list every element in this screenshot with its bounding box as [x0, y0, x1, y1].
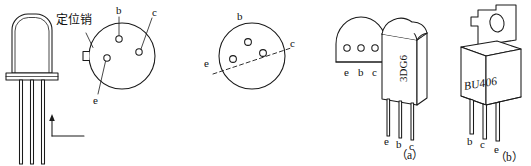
bottom-view-2-label-b: b [237, 11, 243, 22]
metal-can-side-view [6, 14, 84, 164]
package-3dg6-lead-label-e: e [384, 136, 389, 147]
d-shape-label-b: b [358, 67, 364, 78]
d-shape-bottom-view [336, 17, 386, 62]
bottom-view-1-label-e: e [93, 95, 98, 106]
pin-hole-e [230, 56, 237, 63]
package-bu406 [461, 5, 521, 141]
caption-b: （b） [495, 151, 523, 163]
pin-hole-b [116, 36, 122, 42]
bottom-view-2-label-e: e [204, 58, 209, 69]
bottom-view-1-label-c: c [152, 7, 157, 18]
pin-hole-e [344, 45, 350, 51]
bottom-view-2-label-c: c [290, 38, 295, 49]
package-bu406-leads [470, 99, 500, 141]
pin-hole-b [358, 45, 364, 51]
pin-hole-c [136, 49, 142, 55]
bottom-view-with-locating-pin [83, 17, 155, 94]
d-shape-label-e: e [344, 67, 349, 78]
metal-can-leads [20, 80, 45, 164]
pin-hole-e [104, 55, 110, 61]
package-3dg6-marking: 3DG6 [397, 55, 409, 82]
package-bu406-lead-label-c: c [480, 139, 485, 150]
locating-pin-label: 定位销 [56, 14, 92, 26]
bottom-view-1-label-b: b [116, 5, 122, 16]
pin-hole-c [260, 50, 267, 57]
d-shape-label-c: c [372, 67, 377, 78]
caption-a: （a） [396, 149, 423, 161]
lead-direction-arrow [49, 114, 84, 136]
package-bu406-lead-label-b: b [467, 136, 473, 147]
pin-hole-b [245, 39, 252, 46]
locating-pin-leader [86, 33, 93, 48]
pin-hole-c [372, 45, 378, 51]
bottom-view-with-dashed-line [213, 23, 291, 89]
package-3dg6-leads [387, 99, 414, 140]
